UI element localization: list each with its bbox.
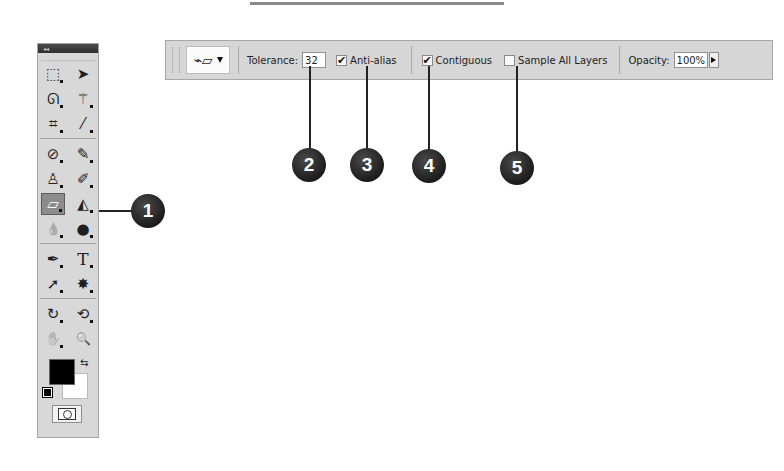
healing-brush-tool[interactable]: ⊘ [41,143,65,165]
eyedropper-tool[interactable]: ⁄ [71,113,95,135]
tool-preset-picker[interactable]: ⌁▱ [186,46,230,74]
callout-line-3 [366,66,368,158]
arrow-pointer-icon: ➚ [47,275,60,293]
callout-line-2 [309,66,311,158]
callout-5: 5 [500,151,534,185]
pen-icon: ✒ [47,250,60,268]
separator [238,46,239,74]
separator [411,46,412,74]
type-tool[interactable]: T [71,248,95,270]
custom-shape-tool[interactable]: ✸ [71,273,95,295]
quick-mask-button[interactable] [52,405,82,423]
lasso-icon: ᘏ [47,90,59,108]
swap-colors-icon[interactable]: ⇆ [80,357,88,368]
history-brush-tool[interactable]: ✐ [71,168,95,190]
eyedropper-icon: ⁄ [82,115,85,133]
sample-all-layers-checkbox[interactable] [504,55,515,66]
contiguous-checkbox[interactable]: ✔ [422,55,433,66]
dodge-tool[interactable]: ● [71,218,95,240]
callout-2: 2 [292,148,326,182]
separator [619,46,620,74]
shape-icon: ✸ [77,275,90,293]
crop-icon: ⌗ [49,115,57,133]
toolbox-grip[interactable] [41,54,95,61]
hand-icon: ✋ [45,331,61,346]
sample-all-layers-label: Sample All Layers [518,55,607,66]
path-selection-tool[interactable]: ➚ [41,273,65,295]
move-tool[interactable]: ➤ [71,63,95,85]
divider [40,138,96,139]
paint-bucket-icon: ◭ [77,195,89,213]
options-bar-grip[interactable] [172,47,180,73]
contiguous-label: Contiguous [436,55,493,66]
opacity-slider-button[interactable] [709,52,719,68]
type-icon: T [77,249,88,269]
top-rule [250,2,504,5]
options-bar: ⌁▱ Tolerance: 32 ✔ Anti-alias ✔ Contiguo… [165,40,773,80]
brush-icon: ✎ [77,145,90,163]
play-arrow-icon [711,57,716,63]
drop-icon: 💧 [46,222,61,236]
hand-tool[interactable]: ✋ [41,328,65,350]
callout-line-4 [428,66,430,158]
lasso-tool[interactable]: ᘏ [41,88,65,110]
magic-wand-icon: ⚚ [76,90,89,108]
anti-alias-label: Anti-alias [350,55,397,66]
brush-tool[interactable]: ✎ [71,143,95,165]
stamp-icon: ♙ [46,170,59,188]
marquee-icon: ⬚ [46,65,60,83]
divider [40,298,96,299]
tolerance-input[interactable]: 32 [302,52,326,68]
3d-orbit-icon: ⟲ [77,305,90,323]
eraser-icon: ▱ [47,195,59,213]
3d-orbit-tool[interactable]: ⟲ [71,303,95,325]
history-brush-icon: ✐ [77,170,90,188]
magic-wand-tool[interactable]: ⚚ [71,88,95,110]
callout-1: 1 [131,194,165,228]
magnifier-icon: 🔍 [76,332,91,346]
3d-rotate-icon: ↻ [47,305,60,323]
bandage-icon: ⊘ [47,145,60,163]
move-icon: ➤ [77,65,90,83]
sample-all-layers-option[interactable]: Sample All Layers [504,55,607,66]
dodge-icon: ● [76,220,89,238]
callout-4: 4 [412,149,446,183]
clone-stamp-tool[interactable]: ♙ [41,168,65,190]
crop-tool[interactable]: ⌗ [41,113,65,135]
tolerance-label: Tolerance: [247,55,298,66]
quick-mask-icon [58,408,76,420]
opacity-input[interactable]: 100% [674,52,708,68]
anti-alias-checkbox[interactable]: ✔ [336,55,347,66]
opacity-label: Opacity: [628,55,669,66]
paint-bucket-tool[interactable]: ◭ [71,193,95,215]
callout-3: 3 [350,148,384,182]
marquee-tool[interactable]: ⬚ [41,63,65,85]
blur-tool[interactable]: 💧 [41,218,65,240]
callout-line-5 [516,66,518,160]
zoom-tool[interactable]: 🔍 [71,328,95,350]
contiguous-option[interactable]: ✔ Contiguous [422,55,493,66]
magic-eraser-tool[interactable]: ▱ [41,193,65,215]
pen-tool[interactable]: ✒ [41,248,65,270]
foreground-color-swatch[interactable] [49,359,75,385]
dropdown-arrow-icon [217,57,223,63]
toolbox-collapse-button[interactable]: ◂◂ [38,44,98,53]
divider [40,243,96,244]
eraser-icon: ⌁▱ [193,52,212,68]
default-colors-icon[interactable] [43,388,52,397]
color-swatches: ⇆ [38,351,98,413]
toolbox-panel: ◂◂ ⬚ ➤ ᘏ ⚚ ⌗ ⁄ ⊘ ✎ ♙ ✐ ▱ ◭ 💧 ● ✒ T ➚ ✸ ↻… [37,43,99,438]
anti-alias-option[interactable]: ✔ Anti-alias [336,55,397,66]
3d-rotate-tool[interactable]: ↻ [41,303,65,325]
